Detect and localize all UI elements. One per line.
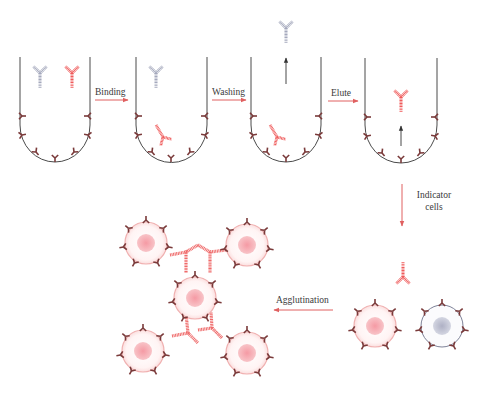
indicator-cells-label: Indicator cells [409,189,459,213]
eluted-antibody-icon [394,90,407,112]
antigen-positive-cell [348,299,402,351]
indicator-label-line2: cells [409,201,459,213]
eluted-antibody-icon [396,262,409,284]
agglutinated-cell [220,326,274,378]
binding-label: Binding [95,86,126,98]
washing-label: Washing [212,86,245,98]
specific-antibody-icon [65,66,78,88]
indicator-cells [348,262,469,351]
agglutinated-cell [168,271,222,323]
bound-antibody-icon [264,121,285,145]
indicator-label-line1: Indicator [409,189,459,201]
well-1-initial [18,57,91,162]
agglutinated-cell [116,324,170,376]
well-4-eluted [363,58,438,163]
agglutination-label: Agglutination [276,294,329,306]
nonspecific-antibody-icon [149,66,162,88]
bound-antibody-icon [150,121,171,145]
agglutinated-cells [116,216,274,378]
well-3-washed [249,21,322,162]
elute-label: Elute [331,87,351,99]
nonspecific-antibody-icon [33,66,46,88]
agglutinated-cell [220,218,274,270]
washed-antibody-icon [279,21,292,43]
antigen-negative-control-cell [415,299,469,351]
well-2-bound [134,57,208,163]
agglutinated-cell [119,216,173,268]
